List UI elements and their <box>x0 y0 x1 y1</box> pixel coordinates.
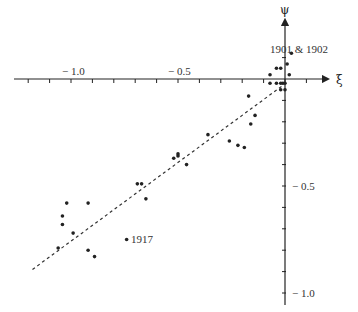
data-point <box>253 114 257 118</box>
data-point <box>249 122 253 126</box>
y-tick-label-minus-0-5: − 0.5 <box>292 180 315 192</box>
data-point <box>268 73 272 77</box>
data-point <box>144 197 148 201</box>
data-point <box>172 156 176 160</box>
data-point <box>243 146 247 150</box>
data-point <box>71 231 75 235</box>
data-point <box>283 81 287 85</box>
data-point <box>287 73 291 77</box>
annotation-1917: 1917 <box>131 233 154 245</box>
data-point-1917 <box>125 238 129 242</box>
data-point <box>140 182 144 186</box>
data-point <box>283 88 287 92</box>
data-point <box>206 133 210 137</box>
data-point <box>275 67 279 71</box>
data-point <box>86 248 90 252</box>
annotation-1901-1902: 1901 & 1902 <box>270 43 328 55</box>
data-point <box>86 201 90 205</box>
y-axis-label: ψ <box>280 3 289 17</box>
data-point <box>236 144 240 148</box>
data-point <box>285 62 289 66</box>
y-tick-label-minus-1: − 1.0 <box>292 287 315 299</box>
data-point <box>136 182 140 186</box>
data-point <box>268 81 272 85</box>
x-axis-label: ξ <box>336 73 343 87</box>
data-point <box>65 201 69 205</box>
data-point <box>279 88 283 92</box>
scatter-chart: − 1.0 − 0.5 ξ − 0.5 − 1.0 ψ 1901 & 1902 … <box>0 0 358 312</box>
data-point <box>93 255 97 259</box>
data-point <box>228 139 232 143</box>
x-tick-label-minus-1: − 1.0 <box>62 65 85 77</box>
data-point <box>176 152 180 156</box>
x-tick-label-minus-0-5: − 0.5 <box>168 65 191 77</box>
regression-line <box>32 85 282 269</box>
data-point <box>279 67 283 71</box>
data-point <box>247 94 251 98</box>
data-point <box>275 81 279 85</box>
data-point <box>185 163 189 167</box>
data-points <box>56 52 293 259</box>
data-point <box>61 223 65 227</box>
data-point <box>61 214 65 218</box>
data-point <box>56 246 60 250</box>
